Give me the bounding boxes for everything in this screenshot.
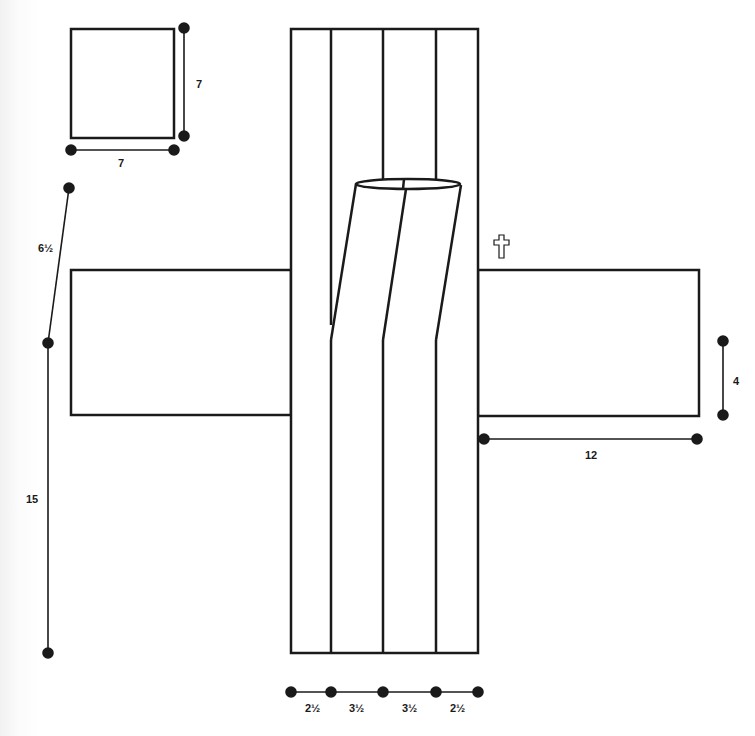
right-arm-height-label: 4 xyxy=(733,375,740,387)
square-height-label: 7 xyxy=(196,78,202,90)
square-panel xyxy=(71,29,174,138)
column-seg-4-label: 2½ xyxy=(450,702,465,714)
square-width-label: 7 xyxy=(118,157,124,169)
right-arm-panel xyxy=(478,270,699,416)
column-seg-1-label: 2½ xyxy=(305,702,320,714)
pattern-diagram: 7 7 6½ 15 4 12 2½ 3½ 3½ 2½ xyxy=(0,0,755,736)
left-vertical-length-label: 15 xyxy=(26,493,38,505)
column-seg-2-label: 3½ xyxy=(349,702,364,714)
tube-top-ellipse xyxy=(356,179,460,189)
center-column xyxy=(291,29,478,653)
slant-length-label: 6½ xyxy=(38,242,53,254)
right-arm-width-label: 12 xyxy=(585,449,597,461)
cross-symbol xyxy=(494,235,509,258)
column-seg-3-label: 3½ xyxy=(402,702,417,714)
diagram-page: 7 7 6½ 15 4 12 2½ 3½ 3½ 2½ xyxy=(0,0,755,736)
left-arm-panel xyxy=(71,270,291,415)
tube-seam-top xyxy=(403,179,404,189)
